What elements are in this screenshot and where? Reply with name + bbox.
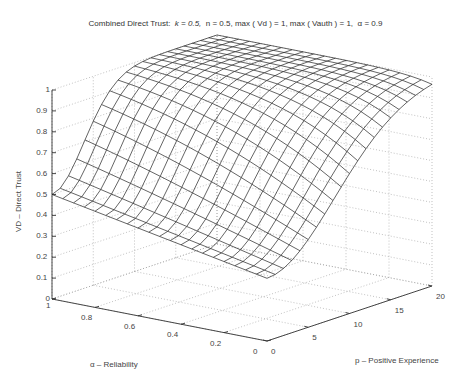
z-tick-label: 1 xyxy=(45,85,49,94)
z-tick-label: 0.3 xyxy=(36,231,47,240)
surface-plot xyxy=(0,0,471,389)
z-tick-label: 0.5 xyxy=(36,190,47,199)
y-tick-label: 10 xyxy=(354,320,363,329)
x-tick-label: 1 xyxy=(46,301,50,310)
z-tick-label: 0.2 xyxy=(36,252,47,261)
z-tick-label: 0.4 xyxy=(36,210,47,219)
z-tick-label: 0.1 xyxy=(36,273,47,282)
y-tick-label: 15 xyxy=(395,306,404,315)
z-tick-label: 0.9 xyxy=(36,106,47,115)
x-tick-label: 0 xyxy=(253,347,257,356)
y-tick-label: 0 xyxy=(271,347,275,356)
x-tick-label: 0.8 xyxy=(81,313,92,322)
z-tick-label: 0.7 xyxy=(36,148,47,157)
chart-title: Combined Direct Trust: k = 0.5, n = 0.5,… xyxy=(0,19,471,28)
x-tick-label: 0.6 xyxy=(124,322,135,331)
z-tick-label: 0.6 xyxy=(36,169,47,178)
surface-mesh xyxy=(52,35,432,278)
y-axis-label: p – Positive Experience xyxy=(355,356,439,365)
z-tick-label: 0.8 xyxy=(36,127,47,136)
axes xyxy=(52,90,432,341)
y-tick-label: 20 xyxy=(436,292,445,301)
z-axis-label: VD – Direct Trust xyxy=(14,171,23,232)
y-tick-label: 5 xyxy=(312,333,316,342)
x-axis-label: α – Reliability xyxy=(90,360,138,369)
x-tick-label: 0.4 xyxy=(167,330,178,339)
x-tick-label: 0.2 xyxy=(210,339,221,348)
